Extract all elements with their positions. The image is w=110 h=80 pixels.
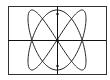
crossing-point-center — [56, 39, 59, 42]
lissajous-figure — [0, 0, 110, 80]
crossing-point-top — [56, 13, 58, 15]
crossing-point-bottom — [56, 65, 58, 67]
